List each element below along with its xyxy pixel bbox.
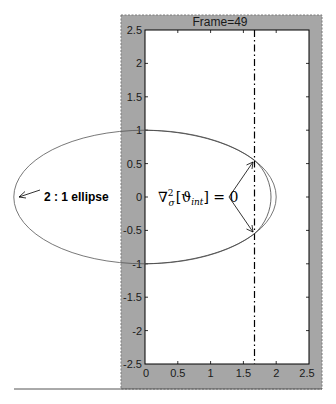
svg-text:2.5: 2.5 — [127, 24, 142, 36]
svg-text:-2: -2 — [132, 325, 142, 337]
svg-text:-1.5: -1.5 — [123, 291, 142, 303]
svg-text:2: 2 — [136, 57, 142, 69]
svg-text:-2.5: -2.5 — [123, 358, 142, 370]
svg-text:0: 0 — [136, 191, 142, 203]
svg-text:1: 1 — [208, 367, 214, 379]
svg-text:1.5: 1.5 — [236, 367, 251, 379]
svg-text:1.5: 1.5 — [127, 91, 142, 103]
svg-text:0.5: 0.5 — [170, 367, 185, 379]
ellipse-annotation: 2 : 1 ellipse — [19, 190, 109, 204]
svg-text:2.5: 2.5 — [299, 367, 314, 379]
ellipse-label: 2 : 1 ellipse — [44, 190, 109, 204]
svg-text:-0.5: -0.5 — [123, 224, 142, 236]
svg-text:0.5: 0.5 — [127, 158, 142, 170]
svg-text:0: 0 — [143, 367, 149, 379]
figure-canvas: Frame=49 2.5 2 1.5 1 0.5 0 -0.5 -1 -1.5 … — [0, 0, 336, 404]
figure-title: Frame=49 — [192, 15, 247, 29]
svg-text:2: 2 — [273, 367, 279, 379]
